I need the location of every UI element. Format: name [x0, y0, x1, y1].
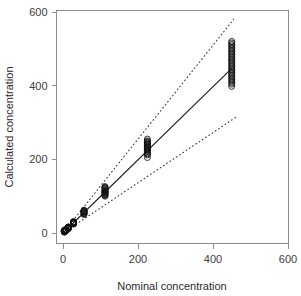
x-tick-label: 600 [279, 253, 297, 265]
y-tick-label: 600 [29, 6, 47, 18]
x-axis-title: Nominal concentration [117, 280, 226, 292]
y-axis-title: Calculated concentration [3, 66, 15, 187]
x-tick-label: 0 [60, 253, 66, 265]
y-tick-label: 200 [29, 153, 47, 165]
y-tick-label: 400 [29, 80, 47, 92]
y-tick-label: 0 [41, 227, 47, 239]
scatter-plot-figure: 0200400600 0200400600 Nominal concentrat… [0, 0, 301, 296]
plot-canvas: 0200400600 0200400600 Nominal concentrat… [0, 0, 301, 296]
x-tick-label: 400 [204, 253, 222, 265]
x-tick-label: 200 [129, 253, 147, 265]
